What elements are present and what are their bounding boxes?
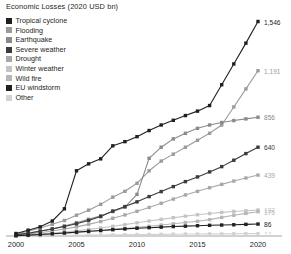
series-marker <box>220 121 223 124</box>
series-marker <box>147 129 150 132</box>
series-marker <box>208 212 211 215</box>
series-marker <box>220 223 223 226</box>
series-marker <box>256 146 259 149</box>
series-end-value-label: 1,546 <box>264 18 281 25</box>
series-marker <box>63 219 66 222</box>
series-marker <box>232 105 235 108</box>
series-marker <box>123 233 126 236</box>
series-marker <box>111 225 114 228</box>
series-marker <box>123 205 126 208</box>
series-marker <box>256 210 259 213</box>
series-marker <box>160 225 163 228</box>
chart-plot-area <box>0 0 291 254</box>
series-marker <box>244 152 247 155</box>
series-marker <box>172 225 175 228</box>
series-marker <box>39 230 42 233</box>
series-marker <box>99 157 102 160</box>
series-marker <box>160 202 163 205</box>
series-marker <box>172 216 175 219</box>
series-marker <box>160 123 163 126</box>
series-marker <box>75 230 78 233</box>
series-marker <box>63 207 66 210</box>
series-marker <box>51 227 54 230</box>
series-marker <box>244 41 247 44</box>
series-marker <box>256 20 259 23</box>
series-marker <box>196 109 199 112</box>
series-end-value-label: 17 <box>264 230 271 237</box>
series-marker <box>87 230 90 233</box>
series-marker <box>111 195 114 198</box>
series-marker <box>196 190 199 193</box>
series-marker <box>196 127 199 130</box>
series-marker <box>160 146 163 149</box>
series-marker <box>135 227 138 230</box>
series-marker <box>184 224 187 227</box>
series-marker <box>220 183 223 186</box>
series-marker <box>184 132 187 135</box>
series-marker <box>172 197 175 200</box>
x-axis-tick-label: 2005 <box>68 240 84 249</box>
series-marker <box>196 232 199 235</box>
series-marker <box>232 179 235 182</box>
series-marker <box>220 232 223 235</box>
series-marker <box>244 117 247 120</box>
series-marker <box>160 159 163 162</box>
series-marker <box>256 116 259 119</box>
series-marker <box>196 213 199 216</box>
series-marker <box>184 114 187 117</box>
series-marker <box>63 225 66 228</box>
series-marker <box>111 217 114 220</box>
series-marker <box>123 213 126 216</box>
series-marker <box>160 233 163 236</box>
chart-root: Economic Losses (2020 USD bn) Tropical c… <box>0 0 291 254</box>
series-end-value-label: 439 <box>264 172 275 179</box>
series-marker <box>99 229 102 232</box>
series-end-value-label: 640 <box>264 144 275 151</box>
series-marker <box>244 176 247 179</box>
series-marker <box>99 233 102 236</box>
series-marker <box>147 226 150 229</box>
series-marker <box>256 232 259 235</box>
series-marker <box>232 62 235 65</box>
series-marker <box>99 203 102 206</box>
series-marker <box>111 228 114 231</box>
series-marker <box>184 221 187 224</box>
series-marker <box>39 225 42 228</box>
series-marker <box>220 211 223 214</box>
series-marker <box>63 231 66 234</box>
series-marker <box>196 175 199 178</box>
series-marker <box>123 190 126 193</box>
series-marker <box>208 186 211 189</box>
series-marker <box>208 232 211 235</box>
series-marker <box>135 200 138 203</box>
series-marker <box>111 233 114 236</box>
series-marker <box>75 169 78 172</box>
series-marker <box>135 233 138 236</box>
series-marker <box>256 173 259 176</box>
x-axis-tick-label: 2020 <box>250 240 266 249</box>
series-marker <box>256 222 259 225</box>
series-marker <box>51 219 54 222</box>
series-marker <box>99 220 102 223</box>
series-marker <box>172 185 175 188</box>
series-marker <box>220 165 223 168</box>
series-marker <box>232 210 235 213</box>
series-marker <box>244 232 247 235</box>
series-marker <box>135 221 138 224</box>
series-end-value-label: 856 <box>264 114 275 121</box>
series-marker <box>208 218 211 221</box>
series-marker <box>87 162 90 165</box>
series-marker <box>147 233 150 236</box>
series-marker <box>232 223 235 226</box>
series-marker <box>232 232 235 235</box>
series-marker <box>256 69 259 72</box>
series-marker <box>147 219 150 222</box>
series-marker <box>14 234 17 237</box>
x-axis-tick-label: 2000 <box>8 240 24 249</box>
series-marker <box>160 218 163 221</box>
series-marker <box>232 159 235 162</box>
series-marker <box>184 232 187 235</box>
series-marker <box>123 227 126 230</box>
series-end-value-label: 1,191 <box>264 67 281 74</box>
series-marker <box>172 152 175 155</box>
